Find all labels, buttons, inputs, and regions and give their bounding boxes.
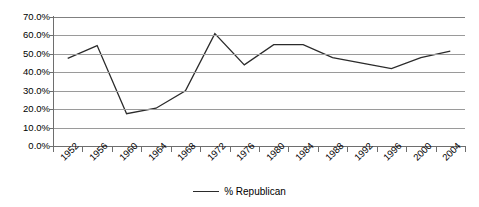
gridline-70.0% xyxy=(53,17,465,18)
y-tick-mark xyxy=(49,72,54,73)
x-tick-mark xyxy=(112,147,113,152)
gridline-10.0% xyxy=(53,128,465,129)
y-tick-mark xyxy=(49,17,54,18)
y-tick-label: 70.0% xyxy=(2,12,50,22)
x-tick-mark xyxy=(230,147,231,152)
x-tick-mark xyxy=(406,147,407,152)
x-tick-mark xyxy=(171,147,172,152)
y-tick-mark xyxy=(49,109,54,110)
y-tick-label: 30.0% xyxy=(2,86,50,96)
legend-line-swatch xyxy=(193,191,219,192)
y-tick-mark xyxy=(49,128,54,129)
y-axis-tick-labels: 0.0%10.0%20.0%30.0%40.0%50.0%60.0%70.0% xyxy=(0,17,50,146)
y-tick-label: 10.0% xyxy=(2,123,50,133)
chart-container: 0.0%10.0%20.0%30.0%40.0%50.0%60.0%70.0% … xyxy=(0,0,479,207)
x-tick-mark xyxy=(436,147,437,152)
x-tick-mark xyxy=(347,147,348,152)
gridline-20.0% xyxy=(53,109,465,110)
y-tick-mark xyxy=(49,54,54,55)
y-tick-label: 50.0% xyxy=(2,49,50,59)
x-tick-mark xyxy=(259,147,260,152)
legend-label-republican: % Republican xyxy=(224,186,286,197)
series-line-republican xyxy=(53,17,465,146)
y-tick-label: 0.0% xyxy=(2,141,50,151)
y-tick-label: 60.0% xyxy=(2,30,50,40)
x-tick-mark xyxy=(200,147,201,152)
x-tick-mark xyxy=(318,147,319,152)
x-tick-mark xyxy=(465,147,466,152)
x-tick-mark xyxy=(53,147,54,152)
x-tick-mark xyxy=(288,147,289,152)
y-tick-label: 20.0% xyxy=(2,104,50,114)
gridline-40.0% xyxy=(53,72,465,73)
gridline-30.0% xyxy=(53,91,465,92)
plot-area xyxy=(53,17,465,146)
y-tick-mark xyxy=(49,91,54,92)
gridline-50.0% xyxy=(53,54,465,55)
chart-legend: % Republican xyxy=(0,186,479,197)
gridline-60.0% xyxy=(53,35,465,36)
x-tick-mark xyxy=(82,147,83,152)
y-tick-mark xyxy=(49,35,54,36)
y-tick-label: 40.0% xyxy=(2,67,50,77)
x-tick-mark xyxy=(141,147,142,152)
x-tick-mark xyxy=(377,147,378,152)
